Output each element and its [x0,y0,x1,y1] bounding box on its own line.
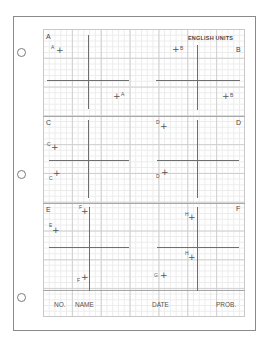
x-axis [49,247,129,248]
panel-label-b: B [236,46,241,53]
point-label: D [156,174,160,179]
binder-hole-icon [17,293,26,302]
x-axis [157,160,239,161]
binder-hole-icon [17,48,26,57]
binder-hole-icon [17,170,26,179]
plus-marker-icon: + [161,168,169,177]
y-axis [88,35,89,109]
panel-divider [43,116,245,117]
y-axis [197,207,198,291]
x-axis [47,80,129,81]
point-label: B [180,46,183,51]
y-axis [197,45,198,110]
plus-marker-icon: + [188,213,196,222]
plus-marker-icon: + [52,226,60,235]
point-label: G [154,273,158,278]
point-label: F [77,278,80,283]
x-axis [157,247,239,248]
graph-grid [43,29,245,317]
y-axis [89,207,90,291]
x-axis [49,160,129,161]
plus-marker-icon: + [51,143,59,152]
panel-label-f: F [236,205,240,212]
plus-marker-icon: + [172,45,180,54]
x-axis [156,80,240,81]
y-axis [197,120,198,198]
point-label: A [121,92,124,97]
point-label: B [230,93,233,98]
plus-marker-icon: + [113,92,121,101]
panel-label-c: C [46,119,51,126]
plus-marker-icon: + [81,207,89,216]
y-axis [88,120,89,198]
panel-label-e: E [46,206,51,213]
footer-name-label: NAME [75,301,94,308]
panel-divider [43,290,245,291]
footer-prob-label: PROB. [216,301,236,308]
plus-marker-icon: + [53,169,61,178]
point-label: A [51,45,54,50]
plus-marker-icon: + [222,92,230,101]
panel-label-a: A [46,33,51,40]
footer-no-label: NO. [54,301,66,308]
plus-marker-icon: + [81,273,89,282]
plus-marker-icon: + [160,271,168,280]
plus-marker-icon: + [160,122,168,131]
plus-marker-icon: + [56,46,64,55]
panel-label-d: D [236,119,241,126]
footer-date-label: DATE [152,301,169,308]
units-label: ENGLISH UNITS [188,35,233,41]
plus-marker-icon: + [188,253,196,262]
panel-divider [43,203,245,204]
